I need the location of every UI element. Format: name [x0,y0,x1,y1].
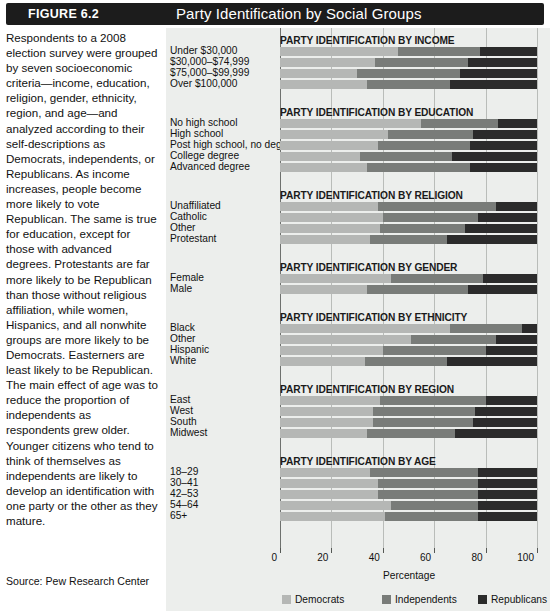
x-tick-label: 60 [420,552,434,563]
bar-segment-republicans [447,357,537,366]
bar-segment-democrats [280,335,411,344]
bar-segment-independents [357,69,460,78]
stacked-bar [280,69,537,78]
category-label: South [170,417,278,428]
bar-segment-independents [398,47,480,56]
category-label: $75,000–$99,999 [170,68,278,79]
section-title-0: PARTY IDENTIFICATION BY INCOME [280,35,455,46]
stacked-bar [280,407,537,416]
stacked-bar [280,357,537,366]
bar-segment-democrats [280,69,357,78]
x-tick-mark [331,548,332,553]
bar-segment-republicans [475,407,537,416]
category-label: Other [170,334,278,345]
category-label: East [170,395,278,406]
bar-segment-independents [378,202,496,211]
bar-segment-republicans [486,396,537,405]
chart-legend: DemocratsIndependentsRepublicans [282,589,544,603]
legend-item-republicans[interactable]: Republicans [478,589,547,601]
gridline-100 [537,28,538,548]
bar-segment-republicans [478,468,537,477]
stacked-bar [280,274,537,283]
stacked-bar [280,47,537,56]
figure-header-bar: FIGURE 6.2 Party Identification by Socia… [6,3,544,25]
bar-segment-democrats [280,396,380,405]
bar-segment-independents [421,119,498,128]
category-label: Post high school, no degree [170,140,278,151]
stacked-bar [280,396,537,405]
category-label: Advanced degree [170,162,278,173]
x-tick-mark [537,548,538,553]
stacked-bar [280,141,537,150]
caption-column: Respondents to a 2008 election survey we… [6,30,158,605]
caption-body-text: Respondents to a 2008 election survey we… [6,30,158,528]
bar-segment-democrats [280,80,367,89]
bar-segment-independents [373,418,473,427]
bar-segment-independents [365,357,447,366]
category-label: 18–29 [170,467,278,478]
section-title-2: PARTY IDENTIFICATION BY RELIGION [280,190,463,201]
bar-segment-republicans [486,346,537,355]
stacked-bar [280,80,537,89]
bar-segment-democrats [280,224,380,233]
bar-segment-republicans [452,152,537,161]
stacked-bar [280,235,537,244]
bar-segment-democrats [280,152,360,161]
bar-segment-independents [367,163,470,172]
stacked-bar [280,512,537,521]
figure-number: FIGURE 6.2 [28,7,99,21]
plot-area [280,28,538,548]
bar-segment-democrats [280,490,378,499]
stacked-bar [280,130,537,139]
bar-segment-democrats [280,235,370,244]
legend-swatch-independents [382,595,391,604]
stacked-bar [280,418,537,427]
category-label: Unaffiliated [170,201,278,212]
category-label: Midwest [170,428,278,439]
stacked-bar [280,213,537,222]
bar-segment-democrats [280,285,367,294]
bar-segment-democrats [280,163,367,172]
stacked-bar [280,501,537,510]
category-label: 42–53 [170,489,278,500]
bar-segment-independents [388,130,473,139]
bar-segment-democrats [280,418,373,427]
category-label: No high school [170,118,278,129]
legend-item-democrats[interactable]: Democrats [282,589,344,601]
x-tick-mark [383,548,384,553]
bar-segment-democrats [280,47,398,56]
legend-label: Republicans [491,594,547,605]
bar-segment-republicans [468,285,537,294]
bar-segment-independents [378,490,478,499]
bar-segment-republicans [496,202,537,211]
category-label: White [170,356,278,367]
bar-segment-republicans [465,224,537,233]
figure-title: Party Identification by Social Groups [176,5,422,22]
bar-segment-republicans [483,274,537,283]
bar-segment-democrats [280,141,378,150]
bar-segment-democrats [280,429,367,438]
bar-segment-independents [367,80,449,89]
bar-segment-democrats [280,274,391,283]
x-tick-label: 40 [369,552,383,563]
section-title-1: PARTY IDENTIFICATION BY EDUCATION [280,107,473,118]
legend-swatch-republicans [478,595,487,604]
bar-segment-republicans [468,58,537,67]
category-label: Catholic [170,212,278,223]
section-title-3: PARTY IDENTIFICATION BY GENDER [280,262,457,273]
bar-segment-independents [370,468,478,477]
section-title-6: PARTY IDENTIFICATION BY AGE [280,456,436,467]
bar-segment-republicans [480,47,537,56]
x-tick-label: 100 [517,552,537,563]
category-label: Protestant [170,234,278,245]
category-label: Hispanic [170,345,278,356]
bar-segment-republicans [496,335,537,344]
bar-segment-democrats [280,357,365,366]
bar-segment-republicans [455,429,537,438]
bar-segment-independents [450,324,522,333]
bar-segment-democrats [280,501,391,510]
bar-segment-republicans [498,119,537,128]
legend-item-independents[interactable]: Independents [382,589,457,601]
stacked-bar [280,58,537,67]
bar-segment-independents [373,407,476,416]
